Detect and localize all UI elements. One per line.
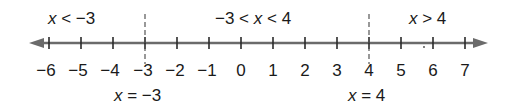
tick-label: −4 [100,61,119,80]
speck-dot [423,46,425,48]
boundary-label-neg3: x = −3 [113,86,161,105]
tick-label: 1 [268,61,277,80]
tick-label: 4 [364,61,373,80]
tick-label: 6 [428,61,437,80]
tick-label: 5 [396,61,405,80]
tick-label: −2 [165,61,184,80]
region-label-middle: −3 < x < 4 [215,9,291,28]
region-label-left: x < −3 [47,9,95,28]
boundary-label-4: x = 4 [347,86,385,105]
tick-label: −6 [36,61,55,80]
tick-label: 2 [300,61,309,80]
tick-label: 3 [332,61,341,80]
left-arrow-icon [29,38,44,48]
tick-labels: −6 −5 −4 −3 −2 −1 0 1 2 3 4 5 6 7 [36,61,469,80]
right-arrow-icon [473,38,488,48]
tick-label: 0 [236,61,245,80]
tick-label: 7 [460,61,469,80]
number-line-diagram: −6 −5 −4 −3 −2 −1 0 1 2 3 4 5 6 7 x < −3… [0,0,508,107]
region-label-right: x > 4 [408,9,446,28]
tick-label: −1 [197,61,216,80]
tick-label: −5 [68,61,87,80]
tick-label: −3 [133,61,152,80]
